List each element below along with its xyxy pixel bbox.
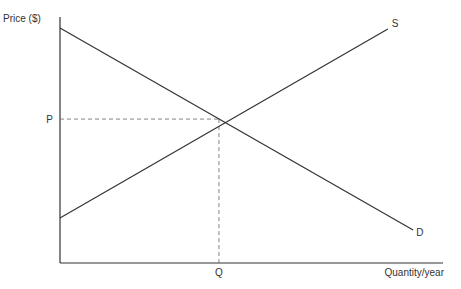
equilibrium-quantity-label: Q <box>215 267 223 278</box>
equilibrium-price-label: P <box>46 114 53 125</box>
supply-demand-chart: Price ($) Quantity/year D S P Q <box>0 0 461 289</box>
supply-label: S <box>392 18 399 29</box>
y-axis-label: Price ($) <box>3 13 41 24</box>
demand-label: D <box>416 227 423 238</box>
x-axis-label: Quantity/year <box>385 267 445 278</box>
demand-curve <box>60 28 413 230</box>
supply-curve <box>60 29 388 218</box>
